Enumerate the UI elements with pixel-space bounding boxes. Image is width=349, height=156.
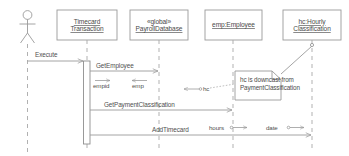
lifeline-label-payroll-database-line1: PayrollDatabase (136, 25, 183, 32)
lifeline-stereotype-payroll-database: «global» (136, 18, 183, 25)
lifeline-label-hc-hourly-classification-line2: Classification (293, 25, 330, 32)
param-arrow-hours (230, 126, 247, 129)
lifeline-label-emp-employee-line1: emp:Employee (212, 21, 255, 28)
activation-bar-timecard-transaction (84, 61, 91, 144)
message-label-add-timecard: AddTimecard (152, 126, 189, 133)
note-text-line1: hc is downcast from (240, 76, 284, 84)
param-label-hc: hc (203, 86, 209, 93)
param-label-empid: empid (93, 83, 109, 90)
param-label-date: date (266, 125, 278, 132)
param-label-hours: hours (209, 125, 224, 132)
lifeline-label-timecard-transaction-line1: Timecard (70, 18, 103, 25)
message-label-get-employee: GetEmployee (96, 62, 134, 69)
message-label-execute: Execute (35, 51, 57, 58)
uml-sequence-diagram: Timecard Transaction «global» PayrollDat… (0, 0, 349, 156)
lifeline-label-hc-hourly-classification-line1: hc:Hourly (293, 18, 330, 25)
actor-stick-figure (20, 11, 36, 43)
lifeline-label-timecard-transaction: Timecard Transaction (57, 10, 117, 40)
lifeline-label-hc-hourly-classification: hc:Hourly Classification (283, 10, 341, 40)
lifeline-label-emp-employee: emp:Employee (205, 10, 262, 40)
note-anchor-line (281, 43, 314, 74)
note-anchor-dotted (210, 84, 235, 88)
message-label-get-payment-classification: GetPaymentClassification (104, 101, 175, 108)
param-label-emp: emp (132, 83, 144, 90)
lifeline-label-timecard-transaction-line2: Transaction (70, 25, 103, 32)
note-text-line2: PaymentClassification (240, 84, 284, 92)
note-text-downcast: hc is downcast from PaymentClassificatio… (240, 76, 284, 93)
param-arrow-date (287, 126, 304, 129)
lifeline-label-payroll-database: «global» PayrollDatabase (130, 10, 188, 40)
param-arrow-hc (184, 88, 202, 91)
